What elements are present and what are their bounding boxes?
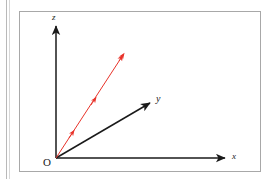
red-ray-marker-3 [119, 55, 123, 61]
figure-root: z y x O [0, 0, 271, 179]
z-axis-label: z [52, 13, 56, 22]
red-ray-marker-1 [69, 132, 73, 138]
red-ray-marker-2 [91, 99, 95, 105]
origin-label: O [43, 157, 51, 168]
y-axis-label: y [156, 94, 160, 104]
red-ray-line [56, 55, 123, 158]
y-axis-line [56, 103, 150, 158]
axes-diagram [0, 0, 271, 179]
x-axis-label: x [232, 152, 236, 161]
